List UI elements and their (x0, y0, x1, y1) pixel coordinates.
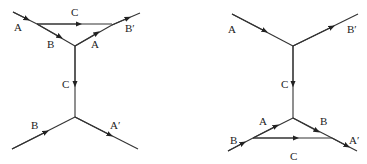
right-label-c-vertical: C (281, 78, 288, 90)
left-b-loop-arrow-icon (37, 24, 60, 37)
right-b-prime-arrow-icon (293, 27, 332, 46)
left-diagram: A C B A B′ C B A′ (12, 6, 140, 149)
left-label-b-prime: B′ (125, 22, 135, 34)
right-label-a-loop: A (259, 115, 267, 127)
right-label-b-loop: B (320, 115, 327, 127)
right-a-loop-arrow-icon (253, 126, 276, 138)
left-label-c-vertical: C (62, 78, 69, 90)
left-a-prime-arrow-icon (75, 117, 110, 135)
right-label-a-prime: A′ (349, 134, 359, 146)
right-a-in-arrow-icon (232, 14, 265, 31)
left-label-a-prime: A′ (110, 119, 120, 131)
left-b-in-arrow-icon (12, 132, 46, 149)
feynman-diagrams: A C B A B′ C B A′ A B′ C (0, 0, 367, 164)
right-label-c-bottom: C (290, 150, 297, 162)
left-label-b-in: B (31, 119, 38, 131)
right-label-a-in: A (228, 23, 236, 35)
right-a-prime-arrow-icon (332, 138, 347, 146)
left-a-in-arrow-icon (13, 12, 27, 19)
left-label-c-top: C (71, 6, 78, 18)
right-label-b-in: B (230, 134, 237, 146)
right-diagram: A B′ C A B B C A′ (228, 14, 359, 162)
left-label-a-loop: A (91, 38, 99, 50)
right-b-loop-arrow-icon (293, 118, 317, 131)
left-label-b-loop: B (47, 38, 54, 50)
left-label-a-in: A (14, 21, 22, 33)
right-label-b-prime: B′ (347, 23, 357, 35)
